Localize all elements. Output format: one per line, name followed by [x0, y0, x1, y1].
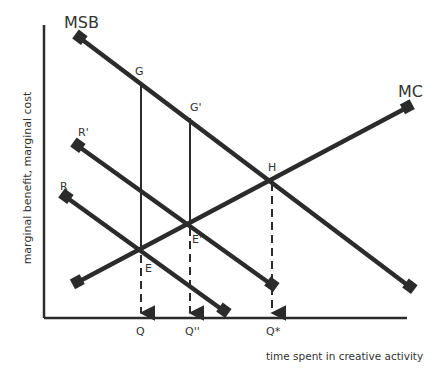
tick-q-label: Q [136, 325, 145, 338]
tick-q-star-label: Q* [266, 325, 281, 338]
tick-q-double-prime-label: Q'' [185, 325, 200, 338]
x-axis-title: time spent in creative activity [266, 350, 423, 362]
point-e-label: E [145, 262, 152, 275]
mc-label: MC [398, 82, 423, 101]
msb-curve [80, 38, 410, 287]
endpoint-markers [58, 30, 417, 318]
y-axis-title: marginal benefit, marginal cost [21, 91, 34, 264]
msb-label: MSB [64, 13, 99, 32]
mc-curve [78, 107, 408, 282]
r-label: R [60, 180, 68, 193]
point-g-label: G [135, 65, 144, 78]
mc-start-marker [70, 274, 85, 289]
axes [44, 25, 407, 318]
point-g-prime-label: G' [190, 101, 202, 114]
r-prime-label: R' [78, 126, 89, 139]
r-curve [66, 197, 224, 311]
point-h-label: H [268, 161, 276, 174]
curves [66, 38, 410, 311]
economics-diagram: MSB MC R' R G G' H E' E Q Q'' Q* time sp… [0, 0, 440, 375]
point-e-prime-label: E' [192, 233, 202, 246]
